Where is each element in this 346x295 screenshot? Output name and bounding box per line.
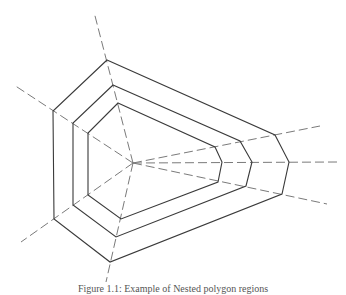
polygon-middle: [73, 85, 252, 237]
ray-bottom: [106, 163, 133, 282]
ray-top: [94, 12, 133, 163]
ray-lower-right: [133, 163, 327, 204]
ray-right: [133, 162, 337, 163]
nested-polygon-diagram: [0, 0, 346, 283]
ray-lower-left: [21, 163, 133, 242]
nested-polygons: [53, 60, 289, 262]
dashed-rays: [14, 12, 337, 282]
polygon-inner: [88, 103, 222, 219]
figure-caption: Figure 1.1: Example of Nested polygon re…: [0, 283, 346, 295]
ray-upper-right: [133, 126, 320, 163]
